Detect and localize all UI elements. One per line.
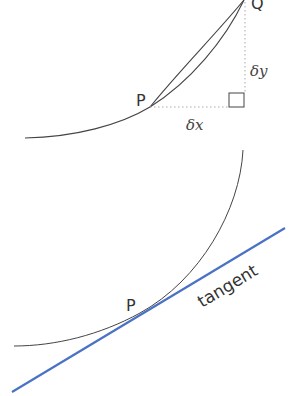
curve-top (25, 0, 244, 138)
point-q-label: Q (251, 0, 264, 13)
tangent-diagram: P tangent (12, 150, 285, 392)
right-angle-marker (229, 93, 244, 107)
tangent-label: tangent (194, 260, 262, 312)
diagram-canvas: P Q δy δx P tangent (0, 0, 292, 396)
chord-pq (150, 0, 244, 107)
delta-y-label: δy (250, 62, 268, 80)
tangent-line (12, 228, 285, 392)
delta-x-label: δx (186, 116, 204, 134)
curve-bottom (14, 150, 243, 346)
point-p-label-top: P (136, 91, 146, 110)
point-p-label-bottom: P (126, 296, 136, 315)
secant-diagram: P Q δy δx (25, 0, 268, 138)
